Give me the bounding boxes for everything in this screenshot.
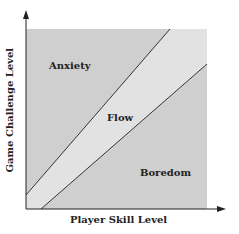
y-axis-label: Game Challenge Level: [4, 63, 15, 173]
boredom-label: Boredom: [140, 167, 191, 178]
x-axis-arrow-icon: [217, 206, 226, 212]
flow-label: Flow: [107, 112, 133, 123]
anxiety-label: Anxiety: [49, 60, 91, 71]
x-axis-label: Player Skill Level: [70, 214, 167, 225]
y-axis-arrow-icon: [23, 10, 29, 19]
